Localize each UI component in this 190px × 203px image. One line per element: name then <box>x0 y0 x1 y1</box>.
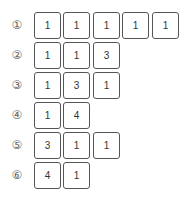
value-box: 1 <box>63 132 90 159</box>
option-row-4[interactable]: ④ 1 4 <box>0 102 190 129</box>
option-number: ① <box>10 17 24 33</box>
value-box: 1 <box>63 12 90 39</box>
value-box: 3 <box>93 42 120 69</box>
option-number: ④ <box>10 107 24 123</box>
value-box: 1 <box>63 42 90 69</box>
value-box: 1 <box>122 12 149 39</box>
value-box: 4 <box>63 102 90 129</box>
option-number: ⑤ <box>10 137 24 153</box>
value-box: 1 <box>93 132 120 159</box>
option-row-5[interactable]: ⑤ 3 1 1 <box>0 132 190 159</box>
value-box: 4 <box>34 162 61 189</box>
option-row-6[interactable]: ⑥ 4 1 <box>0 162 190 189</box>
value-box: 3 <box>63 72 90 99</box>
value-box: 1 <box>34 42 61 69</box>
option-number: ③ <box>10 77 24 93</box>
value-box: 1 <box>34 72 61 99</box>
value-box: 1 <box>34 102 61 129</box>
value-box: 1 <box>34 12 61 39</box>
option-number: ⑥ <box>10 167 24 183</box>
option-row-1[interactable]: ① 1 1 1 1 1 <box>0 12 190 39</box>
value-box: 3 <box>34 132 61 159</box>
option-number: ② <box>10 47 24 63</box>
value-box: 1 <box>93 12 120 39</box>
value-box: 1 <box>93 72 120 99</box>
value-box: 1 <box>152 12 179 39</box>
option-row-2[interactable]: ② 1 1 3 <box>0 42 190 69</box>
option-row-3[interactable]: ③ 1 3 1 <box>0 72 190 99</box>
value-box: 1 <box>63 162 90 189</box>
